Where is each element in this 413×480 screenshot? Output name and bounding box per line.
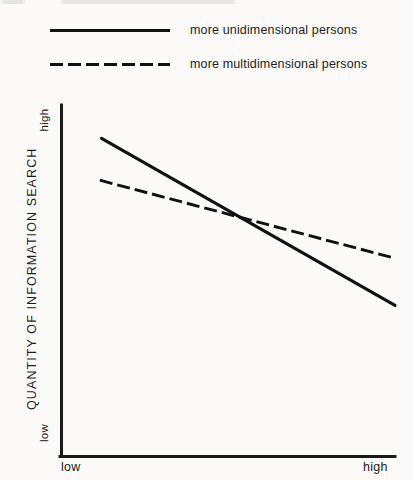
x-axis-tick-low: low [61, 460, 81, 474]
legend-label-unidimensional: more unidimensional persons [190, 23, 357, 37]
legend-item-unidimensional: more unidimensional persons [50, 20, 357, 40]
chart-legend: more unidimensional persons more multidi… [0, 14, 413, 76]
series-line-multidimensional [100, 180, 395, 258]
y-axis-tick-high: high [38, 100, 50, 140]
figure-container: more unidimensional persons more multidi… [0, 0, 413, 480]
legend-swatch-solid-line-icon [50, 24, 170, 36]
x-axis-tick-high: high [363, 460, 388, 474]
series-line-unidimensional [102, 138, 395, 305]
y-axis-tick-low: low [38, 413, 50, 453]
y-axis-title: QUANTITY OF INFORMATION SEARCH [25, 160, 39, 410]
legend-swatch-dashed-line-icon [50, 58, 170, 70]
scan-artifact [0, 0, 413, 4]
legend-item-multidimensional: more multidimensional persons [50, 54, 367, 74]
legend-label-multidimensional: more multidimensional persons [190, 57, 367, 71]
